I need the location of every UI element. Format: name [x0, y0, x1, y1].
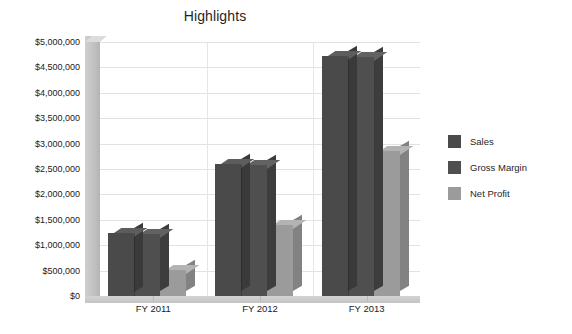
bar-side-face [348, 46, 357, 291]
bar-sales-fy-2011 [108, 233, 134, 297]
plot-floor [85, 296, 420, 303]
gridline [100, 42, 420, 43]
y-axis-tick-label: $2,000,000 [8, 189, 80, 199]
legend-label: Gross Margin [470, 162, 527, 173]
bar-side-face [374, 47, 383, 291]
category-divider [313, 42, 314, 296]
bar-sales-fy-2012 [215, 164, 241, 296]
legend-swatch-icon [448, 161, 461, 174]
plot-area [100, 42, 420, 296]
bar-sales-fy-2013 [322, 56, 348, 296]
y-axis-tick-label: $5,000,000 [8, 37, 80, 47]
y-axis-tick-label: $3,500,000 [8, 113, 80, 123]
plot-left-wall [85, 36, 100, 296]
y-axis-tick-label: $0 [8, 291, 80, 301]
x-axis-tick-label: FY 2012 [205, 303, 315, 314]
bar-front-face [215, 164, 241, 296]
x-axis-tick-label: FY 2011 [98, 303, 208, 314]
y-axis-tick-label: $1,000,000 [8, 240, 80, 250]
x-axis-tick [153, 296, 154, 302]
legend-item-gross-margin[interactable]: Gross Margin [448, 154, 568, 180]
category-divider [207, 42, 208, 296]
chart-legend: SalesGross MarginNet Profit [448, 128, 568, 206]
y-axis: $5,000,000$4,500,000$4,000,000$3,500,000… [0, 0, 80, 334]
bar-side-face [241, 154, 250, 291]
legend-swatch-icon [448, 135, 461, 148]
y-axis-tick-label: $2,500,000 [8, 164, 80, 174]
legend-label: Net Profit [470, 188, 510, 199]
bar-seam [241, 165, 242, 296]
y-axis-tick-label: $500,000 [8, 266, 80, 276]
bar-seam [348, 57, 349, 296]
y-axis-tick-label: $3,000,000 [8, 139, 80, 149]
legend-swatch-icon [448, 187, 461, 200]
bar-seam [134, 234, 135, 296]
chart-container: Highlights $5,000,000$4,500,000$4,000,00… [0, 0, 572, 334]
y-axis-tick-label: $4,500,000 [8, 62, 80, 72]
legend-item-sales[interactable]: Sales [448, 128, 568, 154]
x-axis-tick-label: FY 2013 [312, 303, 422, 314]
y-axis-tick-label: $1,500,000 [8, 215, 80, 225]
bar-front-face [322, 56, 348, 296]
bar-front-face [108, 233, 134, 297]
legend-label: Sales [470, 136, 494, 147]
y-axis-tick-label: $4,000,000 [8, 88, 80, 98]
x-axis-tick [367, 296, 368, 302]
bar-side-face [400, 141, 409, 291]
x-axis-tick [260, 296, 261, 302]
legend-item-net-profit[interactable]: Net Profit [448, 180, 568, 206]
bar-side-face [267, 155, 276, 291]
